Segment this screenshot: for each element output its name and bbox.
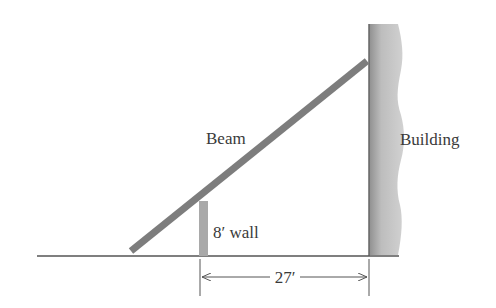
- building: [369, 24, 404, 256]
- beam-label: Beam: [206, 129, 246, 148]
- beam-wall-building-diagram: 27′ Beam 8′ wall Building: [0, 0, 496, 308]
- building-shape: [369, 24, 404, 255]
- building-label: Building: [400, 130, 460, 149]
- distance-dimension: 27′: [200, 259, 369, 296]
- distance-label: 27′: [275, 268, 296, 287]
- wall-label: 8′ wall: [213, 223, 259, 242]
- wall: [199, 201, 208, 256]
